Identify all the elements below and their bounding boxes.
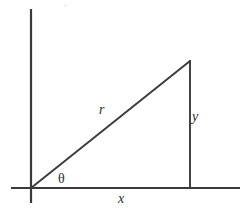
polar-coordinate-diagram: r y x θ bbox=[0, 0, 249, 213]
angle-theta-label: θ bbox=[58, 172, 65, 186]
diagram-canvas bbox=[0, 0, 249, 213]
vertical-leg-label: y bbox=[192, 110, 198, 124]
diagram-background bbox=[0, 0, 249, 213]
background-speck bbox=[64, 4, 67, 7]
horizontal-leg-label: x bbox=[118, 192, 124, 206]
hypotenuse-label: r bbox=[99, 103, 104, 117]
